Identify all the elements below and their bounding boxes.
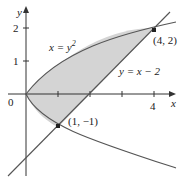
x-axis-label: x: [170, 97, 176, 109]
y-axis-arrow-icon: [23, 6, 29, 13]
line-label: y = x − 2: [118, 65, 161, 77]
parabola-label: x = y2: [48, 39, 76, 53]
origin-label: 0: [8, 96, 14, 108]
point-label-4-2: (4, 2): [153, 34, 177, 47]
point-1-neg1: [56, 124, 60, 128]
y-tick-label-2: 2: [13, 22, 19, 34]
y-tick-label-1: 1: [13, 55, 19, 67]
point-4-2: [152, 28, 156, 32]
y-axis-label: y: [16, 6, 22, 18]
point-label-1-neg1: (1, −1): [68, 115, 98, 128]
diagram-canvas: y x 0 4 1 2 x = y2 y = x − 2 (4, 2) (1, …: [0, 0, 181, 180]
shaded-region-fill: [26, 28, 154, 127]
x-tick-label-4: 4: [150, 100, 156, 112]
